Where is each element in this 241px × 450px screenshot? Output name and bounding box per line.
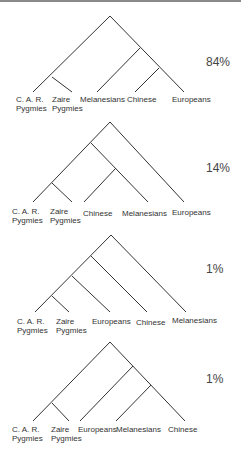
leaf-melanesians: Melanesians bbox=[172, 316, 217, 325]
leaf-chinese: Chinese bbox=[136, 318, 165, 327]
tree-diagram-1 bbox=[0, 0, 241, 110]
leaf-melanesians: Melanesians bbox=[116, 425, 161, 434]
probability-label: 1% bbox=[206, 372, 223, 386]
leaf-car-pygmies: C. A. R.Pygmies bbox=[12, 425, 43, 443]
leaf-europeans: Europeans bbox=[172, 208, 211, 217]
tree-diagram-2 bbox=[0, 110, 241, 220]
leaf-melanesians: Melanesians bbox=[122, 209, 167, 218]
probability-label: 84% bbox=[206, 55, 230, 69]
leaf-europeans: Europeans bbox=[172, 95, 211, 104]
probability-label: 14% bbox=[206, 161, 230, 175]
leaf-europeans: Europeans bbox=[92, 317, 131, 326]
leaf-chinese: Chinese bbox=[83, 209, 112, 218]
tree-panel-14: C. A. R.Pygmies ZairePygmies Chinese Mel… bbox=[0, 110, 241, 220]
tree-panel-1a: C. A. R.Pygmies ZairePygmies Europeans C… bbox=[0, 220, 241, 330]
leaf-melanesians: Melanesians bbox=[80, 95, 125, 104]
leaf-chinese: Chinese bbox=[168, 425, 197, 434]
tree-panel-84: C. A. R.Pygmies ZairePygmies Melanesians… bbox=[0, 0, 241, 110]
probability-label: 1% bbox=[206, 262, 223, 276]
tree-panel-1b: C. A. R.Pygmies ZairePygmies Europeans M… bbox=[0, 330, 241, 440]
leaf-chinese: Chinese bbox=[127, 95, 156, 104]
leaf-europeans: Europeans bbox=[78, 425, 117, 434]
tree-diagram-3 bbox=[0, 220, 241, 330]
